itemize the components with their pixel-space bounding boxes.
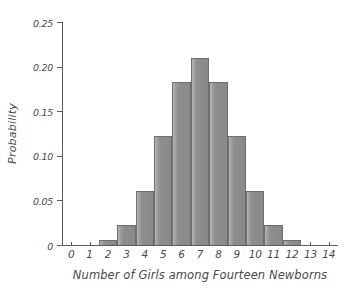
- y-axis-tick-label: 0.20: [33, 62, 53, 73]
- histogram-bar: [172, 82, 190, 246]
- histogram-bar: [264, 225, 282, 245]
- x-axis-tick-label: 6: [178, 248, 184, 260]
- probability-histogram-chart: 00.050.100.150.200.25 012345678910111213…: [0, 0, 351, 294]
- x-axis-tick-label: 9: [234, 248, 240, 260]
- x-axis-tick-label: 8: [215, 248, 221, 260]
- y-axis-tick-label: 0.05: [33, 195, 53, 206]
- histogram-bar: [246, 191, 264, 246]
- histogram-bar: [301, 244, 319, 245]
- y-axis-tick-label: 0.10: [33, 151, 53, 162]
- x-axis-tick-label: 1: [86, 248, 92, 260]
- histogram-bar: [154, 136, 172, 245]
- y-axis-tick: 0: [57, 245, 63, 246]
- histogram-bar: [80, 244, 98, 245]
- histogram-bar: [117, 225, 135, 245]
- x-axis-tick-label: 11: [267, 248, 280, 260]
- x-axis-tick-label: 14: [322, 248, 335, 260]
- x-axis-tick-label: 3: [123, 248, 129, 260]
- bars-container: [62, 22, 338, 245]
- x-axis-tick-label: 2: [105, 248, 111, 260]
- x-axis-tick-label: 0: [68, 248, 74, 260]
- x-axis-title: Number of Girls among Fourteen Newborns: [62, 268, 338, 282]
- y-axis-tick-label: 0: [47, 240, 53, 251]
- x-axis-tick-label: 10: [249, 248, 262, 260]
- histogram-bar: [283, 240, 301, 245]
- histogram-bar: [228, 136, 246, 245]
- histogram-bar: [136, 191, 154, 246]
- y-axis-title: Probability: [4, 22, 20, 245]
- y-axis-tick-label: 0.25: [33, 17, 53, 28]
- x-axis-tick-label: 13: [304, 248, 317, 260]
- histogram-bar: [99, 240, 117, 245]
- y-axis-tick-label: 0.15: [33, 106, 53, 117]
- x-axis-tick-label: 12: [286, 248, 299, 260]
- x-axis-tick-label: 5: [160, 248, 166, 260]
- histogram-bar: [191, 58, 209, 245]
- x-axis-tick-label: 4: [142, 248, 148, 260]
- histogram-bar: [209, 82, 227, 246]
- x-axis-tick-label: 7: [197, 248, 203, 260]
